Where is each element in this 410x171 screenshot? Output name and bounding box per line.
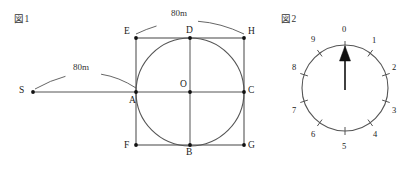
dial-number-7: 7 [292,105,296,115]
dial-number-8: 8 [292,62,296,72]
dial-number-6: 6 [311,129,315,139]
figure1-graphics [31,21,246,147]
dial-number-5: 5 [342,141,346,151]
dial-number-9: 9 [311,34,315,44]
point-label-F: F [124,140,129,150]
dial-tick-9 [317,50,322,56]
dimension-arc-left [35,73,136,89]
dial-tick-4 [368,120,373,126]
figure1-caption: 図1 [14,11,30,25]
point-label-S: S [19,85,24,95]
figure2-graphics [300,41,389,135]
point-label-C: C [248,85,254,95]
dimension-label-top-arc: 80m [171,8,187,18]
point-label-H: H [248,26,255,36]
dial-number-1: 1 [372,35,376,45]
dial-number-0: 0 [342,24,346,34]
needle-arrowhead [340,46,351,61]
point-label-G: G [248,140,255,150]
point-label-D: D [186,25,193,35]
point-label-O: O [180,79,187,89]
dial-number-3: 3 [392,105,396,115]
point-label-A: A [129,95,136,105]
point-label-E: E [124,26,130,36]
point-label-B: B [186,147,192,157]
figure2-caption: 図2 [281,11,297,25]
point-marker-E [134,36,138,40]
point-marker-D [188,36,192,40]
point-marker-S [31,90,35,94]
point-marker-G [242,143,246,147]
point-marker-C [242,90,246,94]
dimension-label-left-arc: 80m [73,62,89,72]
dial-number-4: 4 [373,129,377,139]
dial-tick-1 [368,50,373,56]
dial-number-2: 2 [392,62,396,72]
figure-canvas: 図1 図2 EHFGACDBOS 80m80m 0123456789 [0,0,410,171]
point-marker-H [242,36,246,40]
point-marker-F [134,143,138,147]
diagram-svg [0,0,410,171]
dial-tick-6 [317,120,322,126]
point-marker-O [188,90,192,94]
point-marker-A [134,90,138,94]
